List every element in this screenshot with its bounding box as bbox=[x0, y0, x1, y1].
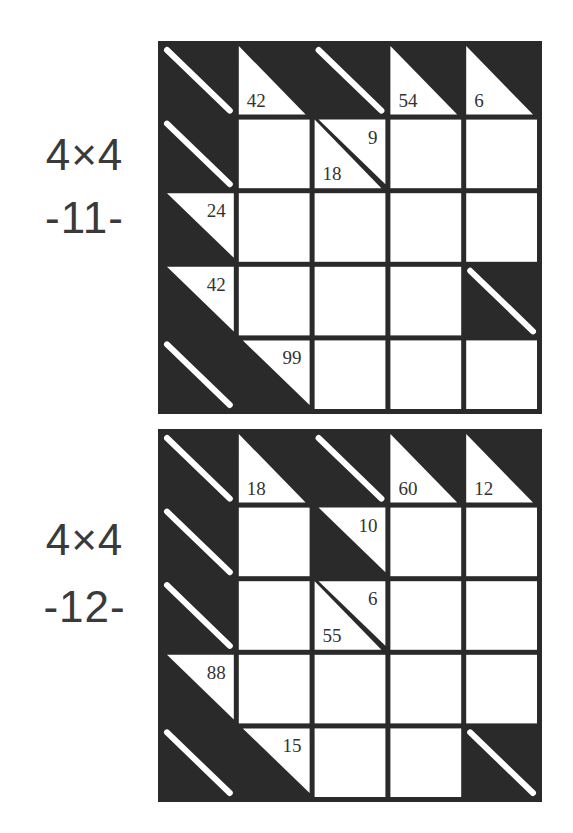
right-clue-value: 6 bbox=[368, 588, 378, 609]
down-clue-value: 54 bbox=[398, 90, 418, 111]
entry-cell[interactable] bbox=[315, 655, 386, 724]
down-clue-value: 12 bbox=[474, 478, 493, 499]
entry-cell[interactable] bbox=[466, 120, 537, 189]
down-clue-value: 42 bbox=[247, 90, 266, 111]
right-clue-value: 42 bbox=[207, 274, 226, 295]
entry-cell[interactable] bbox=[239, 267, 310, 336]
entry-cell[interactable] bbox=[315, 340, 386, 409]
entry-cell[interactable] bbox=[390, 508, 461, 577]
entry-cell[interactable] bbox=[315, 193, 386, 262]
entry-cell[interactable] bbox=[466, 581, 537, 650]
entry-cell[interactable] bbox=[390, 655, 461, 724]
right-clue-value: 24 bbox=[207, 200, 227, 221]
puzzle-size-label: 4×4 bbox=[22, 518, 147, 562]
entry-cell[interactable] bbox=[315, 267, 386, 336]
entry-cell[interactable] bbox=[390, 193, 461, 262]
entry-cell[interactable] bbox=[239, 581, 310, 650]
entry-cell[interactable] bbox=[239, 508, 310, 577]
right-clue-value: 99 bbox=[283, 347, 302, 368]
puzzle-size-label: 4×4 bbox=[22, 133, 147, 177]
entry-cell[interactable] bbox=[315, 728, 386, 797]
right-clue-value: 15 bbox=[283, 735, 302, 756]
entry-cell[interactable] bbox=[466, 340, 537, 409]
down-clue-value: 18 bbox=[323, 163, 342, 184]
down-clue-value: 60 bbox=[398, 478, 417, 499]
puzzle-number-label: -12- bbox=[22, 585, 147, 629]
right-clue-value: 88 bbox=[207, 662, 226, 683]
entry-cell[interactable] bbox=[239, 655, 310, 724]
entry-cell[interactable] bbox=[390, 581, 461, 650]
entry-cell[interactable] bbox=[466, 193, 537, 262]
entry-cell[interactable] bbox=[390, 267, 461, 336]
entry-cell[interactable] bbox=[390, 120, 461, 189]
entry-cell[interactable] bbox=[466, 508, 537, 577]
puzzle-number-label: -11- bbox=[22, 196, 147, 240]
down-clue-value: 55 bbox=[323, 625, 342, 646]
kakuro-grid-11: 42546189244299 bbox=[158, 41, 542, 414]
entry-cell[interactable] bbox=[239, 193, 310, 262]
entry-cell[interactable] bbox=[239, 120, 310, 189]
entry-cell[interactable] bbox=[390, 340, 461, 409]
kakuro-grid-12: 186012105568815 bbox=[158, 429, 542, 802]
right-clue-value: 9 bbox=[368, 127, 378, 148]
down-clue-value: 18 bbox=[247, 478, 266, 499]
entry-cell[interactable] bbox=[466, 655, 537, 724]
right-clue-value: 10 bbox=[358, 515, 377, 536]
entry-cell[interactable] bbox=[390, 728, 461, 797]
down-clue-value: 6 bbox=[474, 90, 484, 111]
